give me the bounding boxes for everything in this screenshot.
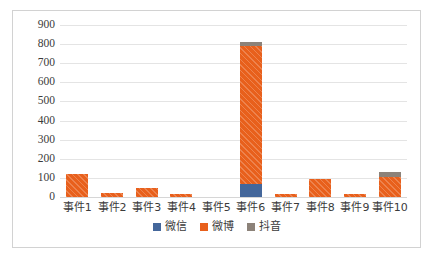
- legend-label: 微信: [165, 221, 187, 232]
- y-tick-label-700: 700: [38, 57, 55, 69]
- y-tick-label-400: 400: [38, 115, 55, 127]
- legend-item[interactable]: 抖音: [247, 221, 281, 232]
- y-tick-label-900: 900: [38, 19, 55, 31]
- x-tick-label: 事件9: [340, 202, 369, 213]
- bar-group[interactable]: 事件4: [164, 25, 199, 197]
- bar-stack[interactable]: [170, 194, 192, 197]
- bar-segment[interactable]: [344, 194, 366, 197]
- legend-swatch-wechat-icon: [153, 223, 161, 231]
- legend-item[interactable]: 微信: [153, 221, 187, 232]
- x-tick-label: 事件7: [271, 202, 300, 213]
- bar-group[interactable]: 事件5: [199, 25, 234, 197]
- bar-stack[interactable]: [101, 193, 123, 197]
- bar-stack[interactable]: [309, 179, 331, 197]
- x-tick-label: 事件6: [236, 202, 265, 213]
- bar-stack[interactable]: [240, 42, 262, 197]
- x-tick-label: 事件10: [372, 202, 408, 213]
- y-tick-label-600: 600: [38, 77, 55, 89]
- plot-area: 0100200300400500600700800900 事件1事件2事件3事件…: [60, 25, 407, 197]
- bar-group[interactable]: 事件1: [60, 25, 95, 197]
- bar-group[interactable]: 事件6: [234, 25, 269, 197]
- y-tick-label-800: 800: [38, 38, 55, 50]
- chart-legend: 微信微博抖音: [13, 221, 420, 232]
- x-tick-label: 事件8: [306, 202, 335, 213]
- bar-segment[interactable]: [170, 194, 192, 197]
- x-tick-label: 事件1: [63, 202, 92, 213]
- bar-group[interactable]: 事件3: [129, 25, 164, 197]
- bar-stack[interactable]: [275, 194, 297, 197]
- chart-figure: 0100200300400500600700800900 事件1事件2事件3事件…: [0, 0, 434, 265]
- bar-segment[interactable]: [275, 194, 297, 197]
- x-tick-label: 事件2: [98, 202, 127, 213]
- legend-label: 微博: [212, 221, 234, 232]
- bar-stack[interactable]: [66, 174, 88, 197]
- y-tick-label-500: 500: [38, 96, 55, 108]
- bar-stack[interactable]: [136, 188, 158, 197]
- y-tick-label-0: 0: [49, 191, 55, 203]
- bar-segment[interactable]: [101, 193, 123, 197]
- y-tick-label-300: 300: [38, 134, 55, 146]
- gridline-0: [60, 197, 407, 198]
- y-tick-label-100: 100: [38, 172, 55, 184]
- legend-item[interactable]: 微博: [200, 221, 234, 232]
- bar-group[interactable]: 事件2: [95, 25, 130, 197]
- bar-group[interactable]: 事件10: [372, 25, 407, 197]
- x-tick-label: 事件5: [202, 202, 231, 213]
- bar-segment[interactable]: [309, 179, 331, 197]
- legend-label: 抖音: [259, 221, 281, 232]
- bar-segment[interactable]: [379, 177, 401, 197]
- bars-layer: 事件1事件2事件3事件4事件5事件6事件7事件8事件9事件10: [60, 25, 407, 197]
- bar-group[interactable]: 事件7: [268, 25, 303, 197]
- legend-swatch-weibo-icon: [200, 223, 208, 231]
- bar-group[interactable]: 事件8: [303, 25, 338, 197]
- y-tick-label-200: 200: [38, 153, 55, 165]
- bar-segment[interactable]: [240, 46, 262, 184]
- bar-group[interactable]: 事件9: [338, 25, 373, 197]
- x-tick-label: 事件3: [132, 202, 161, 213]
- legend-swatch-douyin-icon: [247, 223, 255, 231]
- bar-segment[interactable]: [66, 174, 88, 197]
- bar-stack[interactable]: [344, 194, 366, 197]
- chart-plot-frame: 0100200300400500600700800900 事件1事件2事件3事件…: [12, 10, 421, 248]
- x-tick-label: 事件4: [167, 202, 196, 213]
- bar-segment[interactable]: [240, 184, 262, 197]
- bar-stack[interactable]: [379, 172, 401, 197]
- bar-segment[interactable]: [136, 188, 158, 197]
